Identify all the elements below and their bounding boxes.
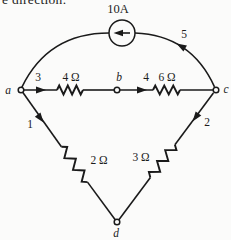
branch-4-label: 4 xyxy=(143,71,149,83)
resistor-3ohm xyxy=(147,142,179,180)
resistor-2ohm xyxy=(58,144,91,185)
resistor-4ohm-label: 4 Ω xyxy=(62,71,79,83)
branch-3-arrow-icon xyxy=(36,87,46,94)
circuit-diagram: 10A a b c d 3 4 5 1 2 4 Ω 6 Ω 2 Ω 3 Ω xyxy=(0,0,231,240)
branch-4-arrow-icon xyxy=(137,87,147,94)
circuit-figure: e direction. xyxy=(0,0,231,240)
wire-r3-to-d xyxy=(119,178,151,221)
node-a-label: a xyxy=(5,84,11,96)
node-d xyxy=(114,219,120,225)
node-d-label: d xyxy=(113,227,119,239)
resistor-3ohm-label: 3 Ω xyxy=(132,151,149,163)
branch-2-label: 2 xyxy=(204,116,210,128)
branch-1-label: 1 xyxy=(27,118,33,130)
resistor-2ohm-label: 2 Ω xyxy=(90,154,107,166)
resistor-6ohm xyxy=(153,86,180,95)
branch-3-label: 3 xyxy=(35,71,41,83)
resistor-6ohm-label: 6 Ω xyxy=(158,71,175,83)
wire-r2-to-d xyxy=(88,182,116,220)
node-b xyxy=(114,87,120,93)
branch-5-label: 5 xyxy=(181,28,187,40)
node-c xyxy=(213,87,219,93)
node-a xyxy=(18,87,24,93)
node-b-label: b xyxy=(116,71,122,83)
resistor-4ohm xyxy=(57,86,83,95)
source-value-label: 10A xyxy=(107,2,129,16)
node-c-label: c xyxy=(223,83,228,95)
